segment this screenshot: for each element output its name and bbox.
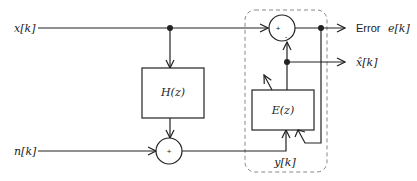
e-block: E(z) bbox=[252, 90, 314, 130]
y-signal-label: y[k] bbox=[273, 156, 296, 169]
e-block-label: E(z) bbox=[271, 104, 294, 117]
error-summer-plus: + bbox=[276, 24, 281, 33]
y-signal-line bbox=[182, 130, 286, 151]
error-output-label: e[k] bbox=[388, 22, 410, 35]
xhat-output-label: x̂[k] bbox=[356, 56, 378, 69]
error-summer: + - bbox=[269, 15, 295, 41]
block-diagram: x[k] H(z) n[k] + y[k] E(z) x̂[k] + - bbox=[0, 0, 417, 181]
noise-summer: + bbox=[156, 138, 182, 164]
error-output-prefix: Error bbox=[356, 22, 381, 34]
input-x-label: x[k] bbox=[14, 22, 36, 35]
h-block: H(z) bbox=[142, 68, 204, 118]
adaptive-arrow-icon bbox=[264, 75, 272, 90]
error-summer-minus: - bbox=[285, 32, 288, 41]
noise-summer-sign: + bbox=[167, 147, 172, 156]
h-block-label: H(z) bbox=[160, 86, 185, 99]
input-n-label: n[k] bbox=[14, 145, 37, 158]
